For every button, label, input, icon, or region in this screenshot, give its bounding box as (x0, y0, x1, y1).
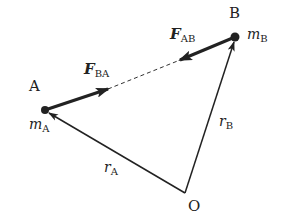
vector-symbol: r (219, 113, 226, 129)
vector-symbol: r (104, 159, 111, 175)
force-arrow-fba (45, 89, 108, 110)
vector-label-rb: rB (219, 114, 233, 131)
point-label-a: A (29, 79, 40, 94)
position-vector-ra (49, 113, 185, 193)
force-label-fba: FBA (84, 62, 109, 79)
interaction-line (108, 60, 180, 89)
vector-label-ra: rA (104, 160, 118, 177)
force-label-fab: FAB (170, 27, 195, 44)
force-subscript: BA (95, 68, 110, 79)
mass-label-a: mA (29, 117, 50, 134)
mass-symbol: m (29, 116, 42, 132)
mass-point-a (41, 106, 49, 114)
mass-subscript: B (260, 33, 267, 44)
mass-label-b: mB (247, 27, 268, 44)
vector-subscript: B (226, 120, 233, 131)
point-label-b: B (229, 6, 240, 21)
point-label-o: O (188, 199, 200, 214)
force-symbol: F (170, 25, 181, 43)
vector-subscript: A (111, 166, 118, 177)
force-symbol: F (84, 60, 95, 78)
force-subscript: AB (181, 33, 196, 44)
mass-point-b (231, 33, 240, 42)
mass-subscript: A (42, 123, 49, 134)
mass-symbol: m (247, 26, 260, 42)
